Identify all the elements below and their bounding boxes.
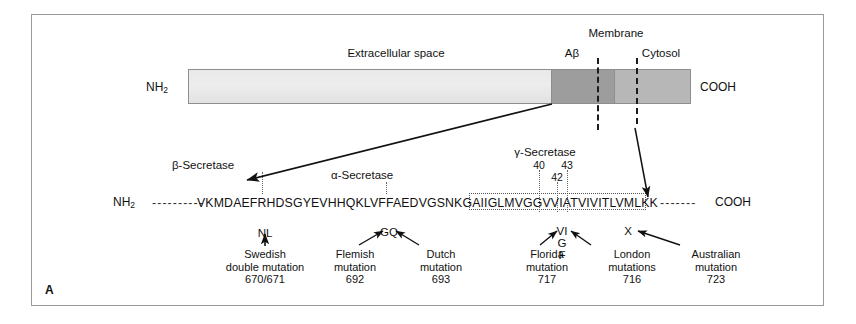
gamma-site-43: 43 <box>561 160 573 171</box>
sequence-right-dashes: ------- <box>660 196 696 210</box>
panel-letter: A <box>45 283 54 297</box>
mutation-flemish-line2: mutation <box>334 261 376 274</box>
mutation-swedish-line1: Swedish <box>226 248 304 261</box>
mutation-swedish-codon: 670/671 <box>226 273 304 286</box>
app-protein-bar <box>188 69 691 104</box>
mutation-flemish-codon: 692 <box>334 273 376 286</box>
mutation-london-codon: 716 <box>608 273 656 286</box>
bar-segment-cytosol <box>614 69 691 104</box>
label-extracellular-space: Extracellular space <box>347 48 444 60</box>
mutation-dutch-line2: mutation <box>420 261 462 274</box>
residue-label-australian: X <box>624 226 632 238</box>
amino-acid-sequence: VKMDAEFRHDSGYEVHHQKLVFFAEDVGSNKGAIIGLMVG… <box>197 196 658 210</box>
bar-segment-extracellular <box>188 69 552 104</box>
mutation-caption-dutch: Dutch mutation 693 <box>420 248 462 286</box>
membrane-boundary-line-inner <box>636 58 638 124</box>
mutation-london-line1: London <box>608 248 656 261</box>
schematic-n-terminus: NH2 <box>146 81 168 93</box>
schematic-c-terminus: COOH <box>700 81 736 93</box>
guide-beta-secretase <box>262 172 263 194</box>
mutation-swedish-line2: double mutation <box>226 261 304 274</box>
schematic-n-terminus-subscript: 2 <box>163 85 168 95</box>
mutation-caption-australian: Australian mutation 723 <box>692 248 741 286</box>
residue-label-swedish: NL <box>258 228 273 240</box>
mutation-australian-codon: 723 <box>692 273 741 286</box>
gamma-site-42: 42 <box>551 172 563 183</box>
label-cytosol: Cytosol <box>642 48 680 60</box>
sequence-c-terminus: COOH <box>715 196 751 208</box>
label-abeta: Aβ <box>565 48 579 60</box>
mutation-florida-line2: mutation <box>526 261 568 274</box>
residue-label-florida-london-1: VI <box>557 226 568 238</box>
sequence-n-terminus: NH2 <box>113 196 135 208</box>
mutation-caption-london: London mutations 716 <box>608 248 656 286</box>
membrane-boundary-line-outer <box>597 58 599 130</box>
gamma-site-40: 40 <box>533 160 545 171</box>
mutation-dutch-line1: Dutch <box>420 248 462 261</box>
mutation-london-line2: mutations <box>608 261 656 274</box>
mutation-australian-line1: Australian <box>692 248 741 261</box>
label-beta-secretase: β-Secretase <box>172 160 234 172</box>
residue-label-flemish-dutch: GQ <box>380 227 398 239</box>
sequence-n-terminus-text: NH <box>113 195 130 209</box>
mutation-dutch-codon: 693 <box>420 273 462 286</box>
mutation-flemish-line1: Flemish <box>334 248 376 261</box>
bar-segment-abeta <box>551 69 615 104</box>
mutation-caption-florida: Florida mutation 717 <box>526 248 568 286</box>
label-alpha-secretase: α-Secretase <box>331 170 393 182</box>
label-membrane: Membrane <box>589 28 644 40</box>
guide-alpha-secretase <box>386 182 387 194</box>
mutation-caption-flemish: Flemish mutation 692 <box>334 248 376 286</box>
schematic-n-terminus-text: NH <box>146 80 163 94</box>
mutation-australian-line2: mutation <box>692 261 741 274</box>
sequence-n-terminus-subscript: 2 <box>130 200 135 210</box>
mutation-florida-codon: 717 <box>526 273 568 286</box>
mutation-florida-line1: Florida <box>526 248 568 261</box>
figure-panel-a: Extracellular space Aβ Membrane Cytosol … <box>0 0 856 324</box>
mutation-caption-swedish: Swedish double mutation 670/671 <box>226 248 304 286</box>
label-gamma-secretase: γ-Secretase <box>514 147 575 159</box>
